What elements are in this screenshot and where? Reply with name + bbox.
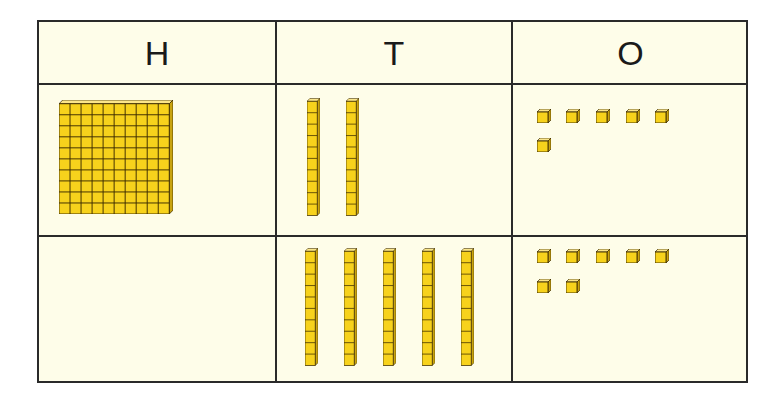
ten-rod-icon — [461, 245, 474, 369]
cell-row2-ones — [513, 237, 748, 381]
place-value-chart: H T O — [37, 20, 748, 383]
unit-cube-icon — [537, 138, 551, 152]
ten-rod-icon — [307, 95, 320, 219]
unit-cube-icon — [537, 109, 551, 123]
ten-rod-icon — [346, 95, 359, 219]
unit-cube-icon — [626, 109, 640, 123]
unit-cube-icon — [566, 109, 580, 123]
unit-cube-icon — [596, 109, 610, 123]
ten-rod-icon — [422, 245, 435, 369]
unit-cube-icon — [655, 249, 669, 263]
unit-cube-icon — [596, 249, 610, 263]
header-hundreds: H — [39, 22, 275, 84]
unit-cube-icon — [537, 279, 551, 293]
unit-cube-icon — [537, 249, 551, 263]
hundred-flat-icon — [59, 100, 173, 214]
cell-row1-ones — [513, 85, 748, 235]
unit-cube-icon — [566, 249, 580, 263]
cell-row2-tens — [277, 237, 511, 381]
ten-rod-icon — [383, 245, 396, 369]
cell-row2-hundreds — [39, 237, 275, 381]
header-ones: O — [513, 22, 748, 84]
unit-cube-icon — [655, 109, 669, 123]
unit-cube-icon — [626, 249, 640, 263]
cell-row1-tens — [277, 85, 511, 235]
header-tens: T — [277, 22, 511, 84]
ten-rod-icon — [305, 245, 318, 369]
unit-cube-icon — [566, 279, 580, 293]
cell-row1-hundreds — [39, 85, 275, 235]
ten-rod-icon — [344, 245, 357, 369]
